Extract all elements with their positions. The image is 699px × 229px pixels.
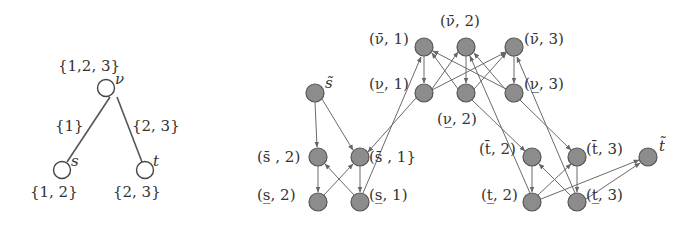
tree-node-v (98, 80, 115, 97)
label-v-bar-2: (ν̄, 2) (440, 12, 480, 30)
label-v-under-3: (ν̲, 3) (524, 75, 564, 93)
edge (315, 102, 317, 147)
diagram-canvas: {1,2, 3} ν {1} {2, 3} s t {1, 2} {2, 3} (0, 0, 699, 229)
label-t-under-2: (t̲, 2) (481, 186, 518, 204)
edge (324, 164, 353, 195)
node-s-bar-2 (309, 148, 327, 166)
node-t-under-2 (523, 193, 541, 211)
tree-node-s (54, 162, 71, 179)
edge (325, 164, 354, 195)
node-v-under-1 (415, 84, 433, 102)
label-v-under-2: (ν̲, 2) (437, 110, 477, 128)
node-t-under-3 (568, 193, 586, 211)
right-graph-edges (315, 51, 640, 199)
left-tree: {1,2, 3} ν {1} {2, 3} s t {1, 2} {2, 3} (30, 57, 180, 201)
tree-edge-vt-label: {2, 3} (132, 117, 180, 135)
node-v-under-2 (457, 84, 475, 102)
node-v-under-3 (505, 84, 523, 102)
node-t-bar-2 (523, 148, 541, 166)
node-s-under-2 (309, 193, 327, 211)
label-t-under-3: (t̲, 3) (586, 186, 623, 204)
label-s-tilde: s̃ (325, 74, 333, 92)
node-s-under-1 (351, 193, 369, 211)
edge (470, 56, 530, 193)
node-t-bar-3 (568, 148, 586, 166)
tree-node-v-set: {1,2, 3} (58, 57, 120, 75)
tree-node-s-set: {1, 2} (30, 183, 78, 201)
edge (322, 99, 353, 150)
node-v-bar-2 (457, 38, 475, 56)
node-v-bar-1 (415, 38, 433, 56)
tree-node-t (137, 162, 154, 179)
label-s-bar-2: (s̄ , 2) (257, 148, 300, 166)
label-t-tilde: t̃ (659, 136, 666, 155)
edge (368, 98, 416, 152)
label-t-bar-3: (t̄, 3) (586, 140, 623, 158)
label-s-under-2: (s̲, 2) (257, 186, 295, 204)
label-t-bar-2: (t̄, 2) (479, 140, 516, 158)
node-v-bar-3 (505, 38, 523, 56)
tree-node-v-label: ν (115, 70, 124, 88)
label-v-bar-1: (ν̄, 1) (369, 30, 409, 48)
tree-edge-vs-label: {1} (55, 117, 84, 135)
label-v-bar-3: (ν̄, 3) (524, 30, 564, 48)
node-s-bar-1 (351, 148, 369, 166)
tree-node-s-label: s (71, 152, 79, 170)
tree-node-t-label: t (153, 152, 160, 170)
node-t-tilde (639, 148, 657, 166)
tree-node-t-set: {2, 3} (113, 183, 161, 201)
label-v-under-1: (ν̲, 1) (369, 75, 409, 93)
label-s-under-1: (s̲, 1) (369, 186, 407, 204)
node-s-tilde (306, 84, 324, 102)
label-s-bar-1: (s̄ , 1} (369, 148, 416, 166)
